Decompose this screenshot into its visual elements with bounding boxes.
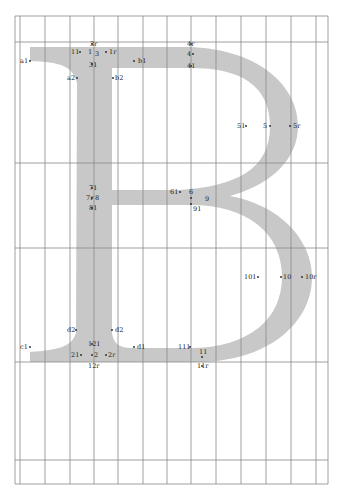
point-marker	[257, 276, 259, 278]
point-marker	[179, 191, 181, 193]
point-marker	[245, 125, 247, 127]
point-marker	[80, 354, 82, 356]
point-marker	[133, 60, 135, 62]
point-label: 6	[189, 188, 193, 196]
point-marker	[75, 329, 77, 331]
point-label: 91	[193, 205, 201, 213]
point-marker	[105, 51, 107, 53]
point-label: b2	[115, 74, 123, 82]
point-label: a1	[20, 57, 28, 65]
point-label: 21	[71, 351, 79, 359]
point-label: d2	[67, 326, 75, 334]
glyph-diagram: 3r11131r31a1b1a2b24r4415155r717r88161699…	[0, 0, 342, 485]
point-label: 51	[237, 122, 245, 130]
point-label: 111	[178, 343, 190, 351]
point-label: 9	[205, 195, 209, 203]
point-label: 3r	[90, 40, 98, 48]
point-marker	[190, 203, 192, 205]
point-label: 10	[283, 273, 291, 281]
point-label: 11	[199, 348, 207, 356]
point-label: 31	[89, 61, 97, 69]
point-label: d1	[137, 343, 145, 351]
point-marker	[76, 77, 78, 79]
point-label: 5r	[293, 122, 301, 130]
point-label: 81	[89, 204, 97, 212]
point-label: 12r	[88, 362, 100, 370]
point-label: 8	[95, 194, 99, 202]
point-label: 1r	[109, 48, 117, 56]
point-label: 4	[187, 50, 191, 58]
point-marker	[192, 53, 194, 55]
point-label: d2	[115, 326, 123, 334]
point-marker	[201, 356, 203, 358]
point-marker	[269, 125, 271, 127]
point-marker	[133, 346, 135, 348]
point-label: 101	[244, 273, 256, 281]
point-label: 5	[263, 122, 267, 130]
point-marker	[105, 354, 107, 356]
point-marker	[280, 276, 282, 278]
point-label: 4r	[187, 40, 195, 48]
point-label: 121	[88, 340, 100, 348]
point-label: 61	[170, 188, 178, 196]
point-marker	[190, 197, 192, 199]
point-label: 10r	[305, 273, 317, 281]
point-marker	[79, 51, 81, 53]
point-marker	[91, 354, 93, 356]
point-marker	[29, 346, 31, 348]
point-label: 11	[71, 48, 79, 56]
point-marker	[112, 77, 114, 79]
point-label: 1	[88, 48, 92, 56]
point-marker	[289, 125, 291, 127]
point-marker	[29, 60, 31, 62]
point-marker	[301, 276, 303, 278]
point-label: 2r	[108, 351, 116, 359]
point-label: 3	[95, 50, 99, 58]
point-label: 7r	[86, 194, 94, 202]
point-label: c1	[20, 343, 28, 351]
point-label: a2	[67, 74, 75, 82]
point-label: 41	[187, 62, 195, 70]
point-label: 2	[94, 351, 98, 359]
point-label: 11r	[197, 362, 209, 370]
point-marker	[111, 329, 113, 331]
point-label: 71	[89, 184, 97, 192]
point-label: b1	[138, 57, 146, 65]
